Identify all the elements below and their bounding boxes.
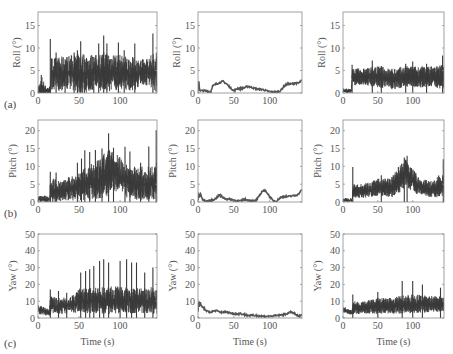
y-tick-label: 10: [330, 296, 340, 307]
axes-box: [198, 120, 302, 202]
y-tick-label: 10: [185, 161, 195, 172]
x-tick-label: 0: [196, 320, 201, 331]
x-tick-label: 0: [36, 320, 41, 331]
y-tick-label: 20: [25, 279, 35, 290]
x-tick-label: 50: [74, 204, 84, 215]
y-axis-label: Pitch (°): [167, 144, 179, 178]
panel-label: (c): [4, 337, 17, 350]
y-tick-label: 15: [185, 20, 195, 31]
x-tick-label: 50: [229, 204, 239, 215]
trace: [38, 259, 157, 318]
panel-label: (b): [4, 207, 17, 220]
panel-a1: 051015050100Roll (°)(a): [4, 12, 157, 111]
panel-c3: 01020304050050100Yaw (°)Time (s): [312, 229, 444, 349]
x-tick-label: 50: [373, 320, 383, 331]
trace: [198, 80, 302, 93]
y-tick-label: 20: [25, 125, 35, 136]
trace: [198, 190, 302, 202]
y-tick-label: 0: [30, 197, 35, 208]
x-tick-label: 100: [113, 320, 128, 331]
y-tick-label: 40: [25, 245, 35, 256]
x-tick-label: 50: [373, 95, 383, 106]
y-axis-label: Yaw (°): [7, 260, 19, 291]
axes-box: [198, 234, 302, 318]
y-tick-label: 10: [185, 43, 195, 54]
y-tick-label: 10: [25, 43, 35, 54]
y-tick-label: 5: [335, 65, 340, 76]
x-tick-label: 0: [196, 95, 201, 106]
x-tick-label: 50: [74, 95, 84, 106]
y-tick-label: 5: [335, 179, 340, 190]
y-tick-label: 0: [335, 197, 340, 208]
y-tick-label: 20: [185, 125, 195, 136]
x-tick-label: 0: [341, 320, 346, 331]
y-tick-label: 40: [330, 245, 340, 256]
x-tick-label: 0: [341, 95, 346, 106]
y-axis-label: Pitch (°): [312, 144, 324, 178]
y-tick-label: 30: [185, 262, 195, 273]
y-tick-label: 0: [190, 197, 195, 208]
y-tick-label: 0: [190, 313, 195, 324]
x-tick-label: 50: [74, 320, 84, 331]
panel-label: (a): [4, 98, 17, 111]
y-axis-label: Yaw (°): [167, 260, 179, 291]
trace: [343, 156, 444, 202]
panel-c1: 01020304050050100Yaw (°)Time (s)(c): [4, 229, 157, 351]
x-tick-label: 100: [262, 95, 277, 106]
x-axis-label: Time (s): [233, 336, 267, 348]
y-tick-label: 15: [185, 143, 195, 154]
y-axis-label: Roll (°): [11, 37, 23, 67]
y-tick-label: 0: [30, 88, 35, 99]
y-tick-label: 20: [330, 279, 340, 290]
y-axis-label: Pitch (°): [7, 144, 19, 178]
y-tick-label: 40: [185, 245, 195, 256]
y-tick-label: 0: [335, 313, 340, 324]
y-tick-label: 10: [330, 43, 340, 54]
y-tick-label: 30: [330, 262, 340, 273]
trace: [198, 302, 302, 318]
figure-3x3-grid: 051015050100Roll (°)(a)051015050100Roll …: [0, 0, 453, 354]
x-axis-label: Time (s): [377, 336, 411, 348]
x-tick-label: 100: [405, 204, 420, 215]
x-tick-label: 50: [229, 95, 239, 106]
x-tick-label: 0: [36, 95, 41, 106]
y-tick-label: 20: [330, 125, 340, 136]
panel-a2: 051015050100Roll (°): [171, 12, 302, 106]
y-tick-label: 15: [330, 20, 340, 31]
y-tick-label: 5: [30, 65, 35, 76]
y-tick-label: 15: [330, 143, 340, 154]
y-tick-label: 10: [25, 296, 35, 307]
y-tick-label: 50: [330, 229, 340, 240]
x-tick-label: 50: [229, 320, 239, 331]
x-tick-label: 0: [196, 204, 201, 215]
trace: [38, 34, 157, 93]
y-tick-label: 50: [25, 229, 35, 240]
x-tick-label: 100: [113, 204, 128, 215]
y-tick-label: 0: [30, 313, 35, 324]
x-tick-label: 50: [373, 204, 383, 215]
axes-box: [198, 12, 302, 93]
x-tick-label: 0: [36, 204, 41, 215]
y-tick-label: 20: [185, 279, 195, 290]
y-tick-label: 10: [185, 296, 195, 307]
panel-b2: 05101520050100Pitch (°): [167, 120, 302, 215]
x-tick-label: 100: [262, 320, 277, 331]
trace: [343, 281, 444, 318]
panel-b3: 05101520050100Pitch (°): [312, 120, 444, 215]
y-tick-label: 15: [25, 20, 35, 31]
x-tick-label: 100: [405, 320, 420, 331]
panel-b1: 05101520050100Pitch (°)(b): [4, 120, 157, 220]
y-axis-label: Yaw (°): [312, 260, 324, 291]
y-tick-label: 5: [190, 179, 195, 190]
trace: [343, 56, 444, 93]
y-tick-label: 0: [190, 88, 195, 99]
trace: [38, 131, 157, 202]
y-tick-label: 10: [25, 161, 35, 172]
x-axis-label: Time (s): [81, 336, 115, 348]
y-tick-label: 50: [185, 229, 195, 240]
x-tick-label: 0: [341, 204, 346, 215]
y-tick-label: 10: [330, 161, 340, 172]
x-tick-label: 100: [113, 95, 128, 106]
y-tick-label: 30: [25, 262, 35, 273]
y-axis-label: Roll (°): [316, 37, 328, 67]
